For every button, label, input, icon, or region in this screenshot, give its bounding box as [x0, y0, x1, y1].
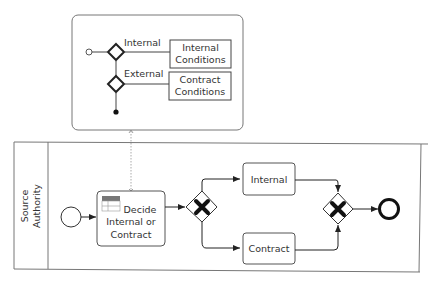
- end-dot-icon: [113, 109, 118, 114]
- decide-task[interactable]: Decide Internal or Contract: [97, 191, 165, 246]
- end-event-icon[interactable]: [380, 200, 399, 219]
- svg-text:Contract: Contract: [111, 229, 152, 240]
- svg-text:Conditions: Conditions: [175, 86, 225, 97]
- exclusive-gateway-split[interactable]: [186, 191, 217, 222]
- svg-text:Authority: Authority: [31, 184, 42, 228]
- decision-panel: Internal External Internal Conditions Co…: [72, 15, 243, 130]
- internal-task[interactable]: Internal: [243, 163, 295, 195]
- start-dot-icon: [86, 49, 92, 55]
- lane-label: Source Authority: [19, 184, 42, 228]
- bpmn-diagram: Internal External Internal Conditions Co…: [0, 0, 440, 282]
- svg-text:Internal or: Internal or: [106, 216, 155, 227]
- branch-label-external: External: [124, 68, 163, 79]
- svg-text:Contract: Contract: [249, 243, 290, 254]
- pool: Source Authority: [14, 142, 428, 272]
- svg-text:Contract: Contract: [180, 74, 221, 85]
- svg-text:Internal: Internal: [182, 42, 219, 53]
- svg-text:Internal: Internal: [251, 174, 288, 185]
- contract-task[interactable]: Contract: [243, 233, 295, 264]
- branch-label-internal: Internal: [124, 37, 161, 48]
- svg-text:Source: Source: [19, 190, 30, 223]
- svg-text:Decide: Decide: [124, 204, 157, 215]
- start-event-icon[interactable]: [61, 207, 81, 227]
- svg-text:Conditions: Conditions: [175, 54, 225, 65]
- business-rule-icon: [102, 196, 120, 201]
- exclusive-gateway-join[interactable]: [323, 193, 353, 224]
